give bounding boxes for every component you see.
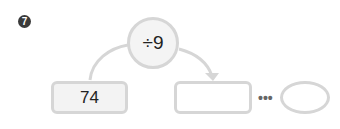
remainder-separator: ••• xyxy=(258,90,273,106)
remainder-answer-oval[interactable] xyxy=(280,81,330,114)
quotient-answer-box[interactable] xyxy=(174,81,252,114)
operation-label: ÷9 xyxy=(143,32,164,54)
arrow-in-line xyxy=(90,45,128,80)
arrow-head-icon xyxy=(205,73,219,81)
start-value-box: 74 xyxy=(51,81,128,114)
operation-circle: ÷9 xyxy=(127,17,179,69)
arrow-out-line xyxy=(179,49,212,76)
start-value: 74 xyxy=(80,88,99,108)
